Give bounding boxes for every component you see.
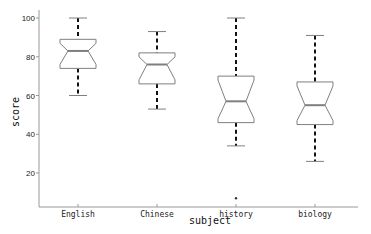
notched-box — [139, 53, 175, 84]
y-axis-title: score — [10, 97, 21, 127]
x-tick-label: biology — [298, 210, 332, 219]
y-tick-label: 80 — [26, 53, 35, 62]
x-tick-label: Chinese — [140, 210, 174, 219]
box-history — [218, 18, 254, 199]
notched-box — [60, 39, 96, 68]
outlier-point — [235, 197, 237, 199]
boxplot-chart: 20406080100EnglishChinesehistorybiology … — [0, 0, 371, 234]
y-tick-label: 40 — [26, 130, 35, 139]
y-tick-label: 60 — [26, 92, 35, 101]
boxes — [60, 18, 333, 199]
y-tick-label: 20 — [26, 169, 35, 178]
x-tick-label: English — [61, 210, 95, 219]
x-axis-title: subject — [189, 215, 231, 226]
notched-box — [297, 82, 333, 125]
box-biology — [297, 35, 333, 161]
box-chinese — [139, 32, 175, 110]
notched-box — [218, 76, 254, 123]
y-tick-label: 100 — [22, 14, 36, 23]
box-english — [60, 18, 96, 96]
